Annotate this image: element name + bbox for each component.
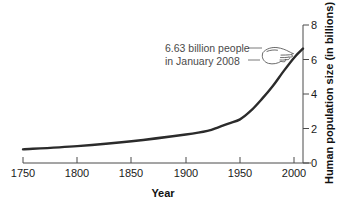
population-line-series: [23, 49, 303, 150]
x-tick-label-1800: 1800: [65, 168, 89, 179]
x-tick-label-1950: 1950: [228, 168, 252, 179]
y-tick-label-4: 4: [311, 89, 317, 100]
x-tick-label-1900: 1900: [174, 168, 198, 179]
callout-line-1: 6.63 billion people: [165, 42, 250, 55]
population-callout-text: 6.63 billion people in January 2008: [165, 42, 250, 68]
callout-line-2: in January 2008: [165, 55, 250, 68]
y-axis-ticks: [303, 25, 309, 163]
y-axis-title: Human population size (in billions): [324, 2, 335, 184]
y-tick-label-6: 6: [311, 54, 317, 65]
x-axis-ticks: [23, 157, 294, 163]
y-tick-label-2: 2: [311, 123, 317, 134]
y-tick-label-8: 8: [311, 20, 317, 31]
callout-leader-lines: [248, 48, 262, 60]
x-tick-label-1750: 1750: [11, 168, 35, 179]
y-tick-label-0: 0: [311, 158, 317, 169]
pointing-hand-icon: [262, 47, 293, 63]
x-tick-label-2000: 2000: [282, 168, 306, 179]
x-tick-label-1850: 1850: [119, 168, 143, 179]
population-growth-chart: 1750 1800 1850 1900 1950 2000 0 2 4 6 8 …: [0, 0, 353, 207]
x-axis-title: Year: [151, 188, 174, 199]
